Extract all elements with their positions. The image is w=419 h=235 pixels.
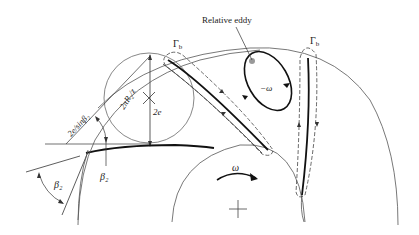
blade-pitch-label: 2e/sinβ₂ [65,111,91,138]
eddy-arrow-a [283,83,290,88]
impeller-diagram: ω 2e 2πR₂/z 2e/sinβ₂ β₂ β₂ Γb Relative [0,0,419,235]
omega-label: ω [232,162,239,173]
pitch-label: 2πR₂/z [117,86,138,111]
relative-eddy-label: Relative eddy [202,15,252,25]
beta2-outer-arrow-b [58,199,64,204]
middle-blade-thin [163,64,262,153]
loop-right-arrow-up [297,122,301,127]
tangent-line [26,156,80,172]
hub-arc [172,145,305,222]
rotation-arrow-omega [217,173,256,180]
middle-blade [168,60,268,150]
eddy-arrow-b [242,95,248,100]
beta2-outer-arrow-a [37,172,41,178]
relative-eddy-loop [235,43,302,118]
blade-tip-line [62,152,88,215]
beta2-inner-label: β₂ [99,171,109,182]
blade-lower-edge [86,145,214,153]
gamma-b-right-label: Γb [310,35,320,48]
gamma-b-left-label: Γb [173,38,183,51]
rotation-arrowhead [250,173,258,181]
beta2-outer-label: β₂ [53,179,63,190]
right-blade [302,58,309,195]
eddy-marker-dot [249,58,255,64]
minus-omega-label: −ω [260,83,272,93]
impeller-outer-arc [98,48,398,225]
beta2-inner-arrow-b [104,137,108,143]
two-e-label: 2e [153,107,162,117]
eddy-leader-line [236,27,252,60]
